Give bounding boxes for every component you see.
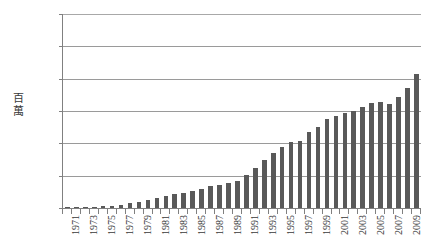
bar-slot xyxy=(251,14,260,208)
x-tick-mark xyxy=(250,209,251,214)
bar xyxy=(280,147,285,208)
x-tick-label: 2009 xyxy=(411,215,422,245)
bar xyxy=(244,175,249,208)
bar-slot xyxy=(126,14,135,208)
bar-slot xyxy=(224,14,233,208)
bar xyxy=(235,181,240,208)
bar-slot xyxy=(242,14,251,208)
x-tick-mark xyxy=(348,209,349,214)
bar xyxy=(298,141,303,208)
x-tick-mark xyxy=(107,209,108,214)
x-tick-label: 1985 xyxy=(196,215,207,245)
bar-slot xyxy=(144,14,153,208)
bar-slot xyxy=(90,14,99,208)
bar-slot xyxy=(305,14,314,208)
x-tick-mark xyxy=(214,209,215,214)
bar-chart: 百萬 020406080100120 197119731975197719791… xyxy=(0,0,429,250)
bar-slot xyxy=(296,14,305,208)
bar-slot xyxy=(367,14,376,208)
bar xyxy=(146,200,151,208)
bar-slot xyxy=(108,14,117,208)
x-tick-label: 2007 xyxy=(393,215,404,245)
x-tick-label: 1983 xyxy=(178,215,189,245)
x-tick-mark xyxy=(169,209,170,214)
bar-slot xyxy=(287,14,296,208)
x-tick-label: 2001 xyxy=(339,215,350,245)
x-tick-mark xyxy=(286,209,287,214)
x-tick-mark xyxy=(322,209,323,214)
x-tick-mark xyxy=(232,209,233,214)
bar-slot xyxy=(233,14,242,208)
x-tick-label: 1971 xyxy=(70,215,81,245)
x-axis-ticks xyxy=(62,209,420,214)
bar xyxy=(74,207,79,208)
x-tick-label: 2005 xyxy=(375,215,386,245)
bar xyxy=(155,198,160,209)
x-tick-mark xyxy=(411,209,412,214)
bar-slot xyxy=(81,14,90,208)
bar xyxy=(334,116,339,208)
x-tick-label: 1987 xyxy=(214,215,225,245)
bar xyxy=(65,207,70,208)
bar-slot xyxy=(376,14,385,208)
bar xyxy=(343,113,348,208)
x-tick-label: 2003 xyxy=(357,215,368,245)
x-tick-label: 1991 xyxy=(249,215,260,245)
x-tick-label: 1973 xyxy=(88,215,99,245)
x-tick-label: 1977 xyxy=(124,215,135,245)
bar-series xyxy=(63,14,421,208)
bar-slot xyxy=(117,14,126,208)
x-tick-mark xyxy=(80,209,81,214)
bar xyxy=(137,202,142,208)
bar-slot xyxy=(99,14,108,208)
bar-slot xyxy=(349,14,358,208)
bar xyxy=(325,119,330,208)
bar xyxy=(83,207,88,208)
bar xyxy=(226,183,231,208)
bar-slot xyxy=(260,14,269,208)
bar-slot xyxy=(278,14,287,208)
bar xyxy=(253,168,258,208)
x-tick-mark xyxy=(331,209,332,214)
x-tick-mark xyxy=(375,209,376,214)
bar-slot xyxy=(197,14,206,208)
x-tick-mark xyxy=(223,209,224,214)
bar xyxy=(217,185,222,208)
bar xyxy=(396,97,401,208)
y-axis-unit-char: 百 xyxy=(8,92,28,105)
x-tick-mark xyxy=(143,209,144,214)
bar-slot xyxy=(323,14,332,208)
bar xyxy=(119,205,124,208)
y-axis-unit-char: 萬 xyxy=(8,105,28,118)
x-tick-mark xyxy=(420,209,421,214)
x-tick-mark xyxy=(98,209,99,214)
bar xyxy=(316,127,321,208)
x-tick-mark xyxy=(384,209,385,214)
bar-slot xyxy=(170,14,179,208)
x-tick-mark xyxy=(313,209,314,214)
x-tick-mark xyxy=(295,209,296,214)
bar xyxy=(414,74,419,208)
x-tick-label: 1999 xyxy=(321,215,332,245)
bar-slot xyxy=(179,14,188,208)
bar-slot xyxy=(332,14,341,208)
x-tick-mark xyxy=(187,209,188,214)
bar-slot xyxy=(153,14,162,208)
bar-slot xyxy=(403,14,412,208)
bar xyxy=(164,196,169,208)
bar xyxy=(289,142,294,208)
bar-slot xyxy=(394,14,403,208)
x-tick-mark xyxy=(71,209,72,214)
bar-slot xyxy=(412,14,421,208)
bar xyxy=(369,103,374,208)
x-tick-mark xyxy=(134,209,135,214)
x-tick-mark xyxy=(178,209,179,214)
bar xyxy=(271,153,276,208)
x-tick-mark xyxy=(125,209,126,214)
bar xyxy=(378,102,383,208)
bar xyxy=(307,132,312,208)
bar-slot xyxy=(161,14,170,208)
x-tick-mark xyxy=(259,209,260,214)
bar xyxy=(262,160,267,209)
bar-slot xyxy=(358,14,367,208)
